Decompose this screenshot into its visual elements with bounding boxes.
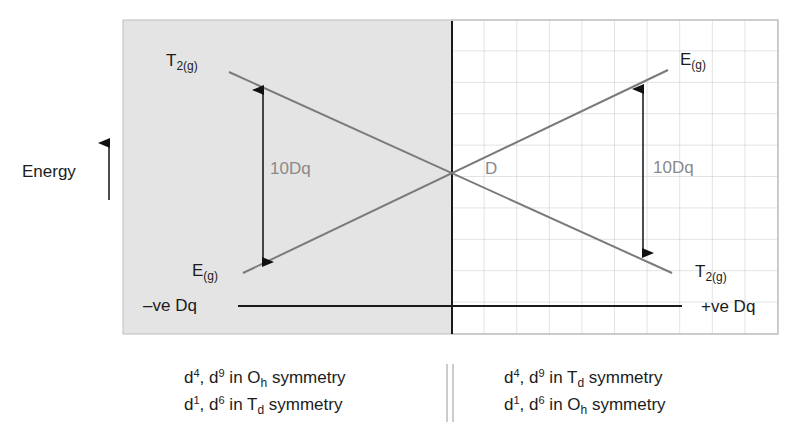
negative-dq-label: –ve Dq (143, 297, 197, 314)
t2g-left-label: T2(g) (166, 52, 198, 69)
eg-left-label: E(g) (192, 262, 218, 279)
t2g-right-label: T2(g) (695, 263, 727, 280)
energy-label: Energy (22, 163, 76, 180)
caption-left-line1: d4, d9 in Oh symmetry (184, 369, 346, 386)
caption-divider (440, 362, 460, 424)
caption-right-line2: d1, d6 in Oh symmetry (504, 396, 666, 413)
caption-right-line1: d4, d9 in Td symmetry (504, 369, 662, 386)
orgel-diagram: Energy T2(g) E(g) E(g) T2(g) 10Dq 10Dq D… (0, 0, 799, 436)
positive-dq-label: +ve Dq (701, 298, 755, 315)
eg-right-label: E(g) (680, 51, 706, 68)
split-left-label: 10Dq (270, 160, 311, 177)
grid (452, 20, 778, 334)
crossing-point-label: D (485, 160, 497, 177)
caption-left-line2: d1, d6 in Td symmetry (184, 396, 342, 413)
split-right-label: 10Dq (653, 159, 694, 176)
